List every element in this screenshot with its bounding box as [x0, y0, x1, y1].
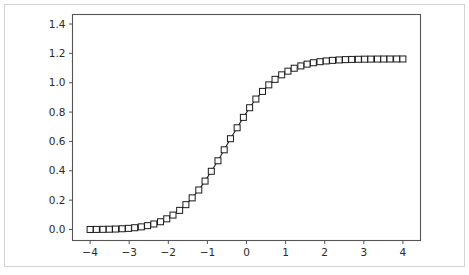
data-point-marker [189, 195, 195, 201]
data-point-marker [355, 56, 361, 62]
x-tick-label: −3 [121, 246, 136, 258]
data-point-marker [298, 63, 304, 69]
x-tick-label: −2 [161, 246, 176, 258]
y-tick-label: 0.8 [49, 106, 66, 118]
data-point-marker [342, 57, 348, 63]
data-point-marker [394, 56, 400, 62]
x-tick-label: 2 [321, 246, 328, 258]
data-point-marker [362, 56, 368, 62]
y-tick-label: 1.0 [49, 76, 66, 88]
data-point-marker [125, 225, 131, 231]
x-tick-label: 1 [282, 246, 289, 258]
data-point-marker [177, 207, 183, 213]
x-tick-label: 3 [360, 246, 367, 258]
data-point-marker [100, 226, 106, 232]
data-point-marker [368, 56, 374, 62]
data-point-marker [119, 226, 125, 232]
data-point-marker [106, 226, 112, 232]
x-tick-label: −4 [82, 246, 98, 258]
data-point-marker [196, 187, 202, 193]
axes-spine [73, 15, 421, 241]
data-point-marker [266, 82, 272, 88]
data-point-marker [93, 226, 99, 232]
data-point-marker [285, 68, 291, 74]
data-point-marker [145, 223, 151, 229]
x-axis-tick-labels: −4−3−2−101234 [82, 246, 406, 258]
y-tick-label: 1.2 [49, 47, 66, 59]
data-point-marker [208, 168, 214, 174]
data-point-marker [323, 58, 329, 64]
data-point-marker [291, 65, 297, 71]
data-point-marker [87, 226, 93, 232]
data-point-marker [336, 57, 342, 63]
y-axis-tick-labels: 0.00.20.40.60.81.01.21.4 [49, 18, 66, 235]
series-line [90, 59, 403, 229]
x-tick-label: 0 [243, 246, 250, 258]
data-point-marker [132, 225, 138, 231]
x-tick-label: 4 [400, 246, 407, 258]
data-point-marker [387, 56, 393, 62]
data-point-marker [400, 56, 406, 62]
y-tick-label: 0.0 [49, 223, 66, 235]
y-tick-label: 1.4 [49, 18, 66, 30]
data-point-marker [221, 147, 227, 153]
data-point-marker [183, 202, 189, 208]
y-tick-label: 0.2 [49, 194, 66, 206]
data-point-marker [260, 88, 266, 94]
data-point-marker [317, 59, 323, 65]
plot-canvas: 0.00.20.40.60.81.01.21.4 −4−3−2−101234 [0, 0, 469, 275]
data-point-marker [253, 96, 259, 102]
data-point-marker [151, 221, 157, 227]
data-point-marker [381, 56, 387, 62]
y-tick-label: 0.6 [49, 135, 66, 147]
series-markers [87, 56, 406, 232]
data-point-marker [240, 114, 246, 120]
data-point-marker [247, 105, 253, 111]
data-point-marker [215, 158, 221, 164]
chart-figure: 0.00.20.40.60.81.01.21.4 −4−3−2−101234 [0, 0, 469, 275]
data-point-marker [202, 178, 208, 184]
data-point-marker [138, 224, 144, 230]
data-point-marker [310, 60, 316, 66]
data-point-marker [234, 125, 240, 131]
data-point-marker [272, 76, 278, 82]
x-tick-label: −1 [200, 246, 215, 258]
data-point-marker [279, 72, 285, 78]
data-point-marker [304, 61, 310, 67]
y-tick-label: 0.4 [49, 164, 66, 176]
data-point-marker [349, 56, 355, 62]
data-point-marker [170, 212, 176, 218]
data-point-marker [330, 57, 336, 63]
data-point-marker [164, 216, 170, 222]
data-point-marker [227, 136, 233, 142]
data-point-marker [374, 56, 380, 62]
data-point-marker [113, 226, 119, 232]
data-point-marker [157, 219, 163, 225]
